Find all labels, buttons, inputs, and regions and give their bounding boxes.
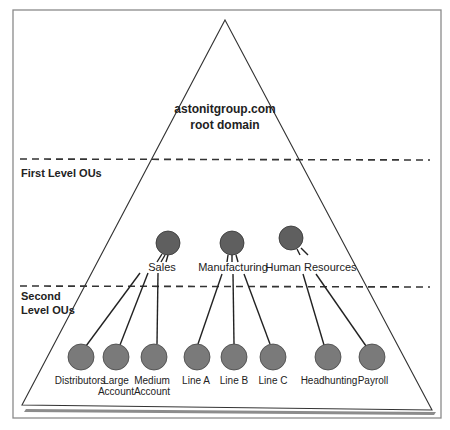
- ou-node-manufacturing: [220, 231, 244, 255]
- ou-node-human-resources: [279, 226, 303, 250]
- ou-node-sales: [156, 231, 180, 255]
- ou-label-large-account-1: Large: [103, 375, 129, 386]
- ou-node-headhunting: [315, 344, 341, 370]
- second-level-label-line2: Level OUs: [21, 304, 75, 316]
- ou-label-payroll: Payroll: [358, 375, 389, 386]
- ou-node-line-c: [260, 344, 286, 370]
- root-domain-caption: root domain: [190, 118, 259, 132]
- ou-label-headhunting: Headhunting: [301, 375, 358, 386]
- first-level-label: First Level OUs: [21, 167, 102, 179]
- ou-label-sales: Sales: [148, 261, 176, 273]
- ou-label-distributors: Distributors: [55, 375, 106, 386]
- ou-node-line-b: [221, 344, 247, 370]
- ou-node-line-a: [184, 344, 210, 370]
- ou-label-large-account-2: Account: [98, 386, 134, 397]
- ou-label-line-a: Line A: [182, 375, 210, 386]
- ou-label-medium-account-2: Account: [134, 386, 170, 397]
- ou-label-human-resources: Human Resources: [265, 261, 357, 273]
- ou-hierarchy-diagram: astonitgroup.com root domain First Level…: [0, 0, 450, 430]
- ou-node-medium-account: [141, 344, 167, 370]
- ou-label-manufacturing: Manufacturing: [198, 261, 268, 273]
- first-level-divider: [20, 159, 430, 160]
- ou-label-line-c: Line C: [259, 375, 288, 386]
- ou-node-distributors: [68, 344, 94, 370]
- ou-label-line-b: Line B: [220, 375, 249, 386]
- ou-node-large-account: [103, 344, 129, 370]
- ou-node-payroll: [359, 344, 385, 370]
- second-level-divider: [20, 286, 430, 287]
- second-level-label-line1: Second: [21, 290, 61, 302]
- root-domain-name: astonitgroup.com: [174, 102, 275, 116]
- ou-label-medium-account-1: Medium: [134, 375, 170, 386]
